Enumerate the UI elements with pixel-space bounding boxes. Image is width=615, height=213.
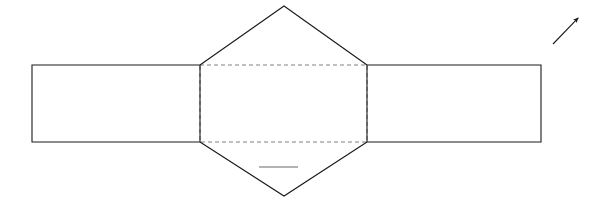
center-rectangle-shape [200, 65, 367, 142]
direction-arrow [553, 18, 578, 44]
figure-svg [0, 0, 615, 213]
top-triangle-shape [200, 6, 367, 65]
left-rectangle-shape [32, 65, 200, 142]
figure-canvas [0, 0, 615, 213]
right-rectangle-shape [367, 65, 541, 142]
bottom-triangle-shape [200, 142, 367, 196]
